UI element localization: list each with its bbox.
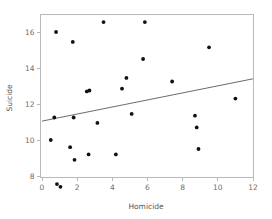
data-point: [55, 182, 59, 186]
data-point: [54, 30, 58, 34]
x-tick-label: 4: [110, 183, 115, 192]
y-axis-title: Suicide: [5, 84, 14, 112]
x-tick-label: 12: [248, 183, 258, 192]
y-tick-label: 12: [25, 100, 35, 109]
data-point: [68, 145, 72, 149]
data-point: [73, 158, 77, 162]
data-point: [120, 87, 124, 91]
data-point: [170, 80, 174, 84]
data-point: [195, 126, 199, 130]
data-point: [143, 20, 147, 24]
y-tick-labels: 810121416: [25, 28, 35, 181]
y-tick-label: 8: [30, 172, 35, 181]
x-tick-label: 6: [145, 183, 150, 192]
x-axis-title: Homicide: [128, 202, 164, 211]
y-tick-label: 14: [25, 64, 35, 73]
data-point: [71, 40, 75, 44]
x-tick-label: 0: [40, 183, 45, 192]
scatter-chart: 024681012 810121416 Homicide Suicide: [0, 0, 272, 219]
data-point: [49, 138, 53, 142]
data-points: [49, 20, 237, 189]
data-point: [141, 57, 145, 61]
trend-line: [42, 79, 253, 121]
regression-line: [42, 79, 253, 121]
data-point: [102, 20, 106, 24]
data-point: [72, 116, 76, 120]
x-tick-label: 2: [75, 183, 80, 192]
data-point: [114, 153, 118, 157]
data-point: [88, 89, 92, 93]
data-point: [207, 45, 211, 49]
data-point: [130, 112, 134, 116]
plot-frame: [41, 15, 254, 178]
data-point: [59, 185, 63, 189]
data-point: [95, 121, 99, 125]
plot-svg: 024681012 810121416 Homicide Suicide: [0, 0, 272, 219]
data-point: [193, 114, 197, 118]
x-tick-label: 8: [180, 183, 185, 192]
data-point: [234, 97, 238, 101]
data-point: [197, 147, 201, 151]
y-tick-label: 16: [25, 28, 35, 37]
data-point: [87, 153, 91, 157]
y-tick-label: 10: [25, 136, 35, 145]
axis-ticks: [37, 32, 253, 181]
x-tick-labels: 024681012: [40, 183, 258, 192]
data-point: [52, 116, 56, 120]
data-point: [125, 76, 129, 80]
x-tick-label: 10: [213, 183, 223, 192]
plot-frame-box: [41, 15, 254, 178]
